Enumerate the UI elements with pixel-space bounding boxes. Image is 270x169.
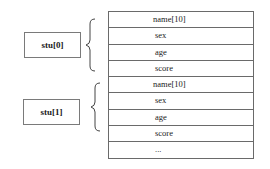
- row-sex-0: sex: [109, 28, 253, 44]
- label-stu1: stu[1]: [23, 99, 80, 125]
- brace-stu1-icon: [89, 82, 105, 132]
- row-name-0: name[10]: [109, 12, 253, 28]
- row-ellipsis: ...: [109, 142, 253, 158]
- row-score-1: score: [109, 126, 253, 142]
- row-age-0: age: [109, 45, 253, 61]
- row-sex-1: sex: [109, 93, 253, 109]
- row-name-1: name[10]: [109, 77, 253, 93]
- label-stu0: stu[0]: [24, 32, 81, 58]
- row-age-1: age: [109, 110, 253, 126]
- brace-stu0-icon: [84, 18, 100, 72]
- row-score-0: score: [109, 61, 253, 77]
- struct-array-memory-table: name[10] sex age score name[10] sex age …: [108, 11, 254, 159]
